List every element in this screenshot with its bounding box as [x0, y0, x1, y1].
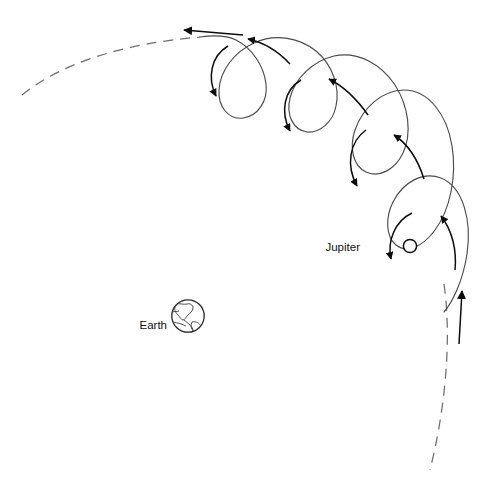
- deferent-loop-path: [200, 36, 468, 312]
- top-travel-arrow: [184, 30, 243, 35]
- jupiter-marker: [403, 239, 416, 252]
- loop-3-prograde-arrow: [394, 135, 424, 179]
- dashed-arc-upper-left: [22, 37, 200, 95]
- bottom-travel-arrow: [459, 291, 462, 344]
- earth-label: Earth: [140, 319, 168, 331]
- earth-globe: [172, 300, 204, 333]
- earth-globe-outline: [172, 300, 204, 332]
- retrograde-motion-figure: Jupiter Earth: [0, 0, 486, 484]
- jupiter-label: Jupiter: [325, 241, 360, 253]
- loop-4-prograde-arrow: [441, 216, 455, 270]
- diagram-canvas: Jupiter Earth: [0, 0, 486, 484]
